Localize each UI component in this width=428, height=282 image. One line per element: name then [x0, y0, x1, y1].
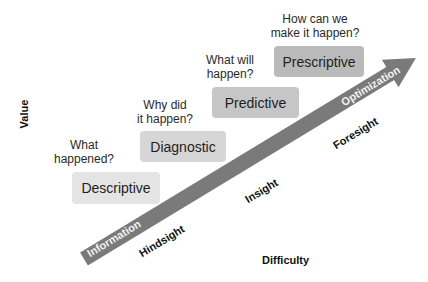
question-line: it happen? [130, 112, 200, 126]
question-line: What will [198, 53, 262, 67]
question-line: How can we [260, 12, 370, 26]
question-line: happened? [48, 152, 120, 166]
question-descriptive: What happened? [48, 138, 120, 166]
question-diagnostic: Why did it happen? [130, 98, 200, 126]
question-prescriptive: How can we make it happen? [260, 12, 370, 40]
question-predictive: What will happen? [198, 53, 262, 81]
question-line: happen? [198, 67, 262, 81]
question-line: What [48, 138, 120, 152]
question-line: Why did [130, 98, 200, 112]
question-line: make it happen? [260, 26, 370, 40]
